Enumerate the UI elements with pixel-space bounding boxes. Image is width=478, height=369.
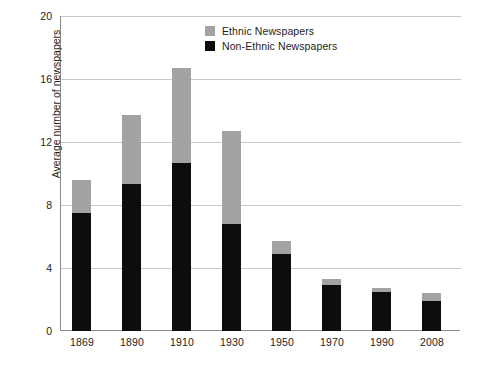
bar-segment-ethnic bbox=[272, 241, 291, 254]
bar-1990 bbox=[372, 288, 391, 331]
bar-segment-ethnic bbox=[122, 115, 141, 184]
y-tick-0: 0 bbox=[26, 326, 52, 337]
bar-1869 bbox=[72, 180, 91, 331]
legend-label-non-ethnic: Non-Ethnic Newspapers bbox=[222, 39, 337, 53]
chart-legend: Ethnic Newspapers Non-Ethnic Newspapers bbox=[205, 24, 337, 54]
x-axis-ticks: 1869 1890 1910 1930 1950 1970 1990 2008 bbox=[60, 336, 460, 352]
x-tick-1970: 1970 bbox=[307, 336, 357, 349]
x-tick-1890: 1890 bbox=[107, 336, 157, 349]
bar-segment-non-ethnic bbox=[322, 285, 341, 331]
y-tick-12: 12 bbox=[26, 137, 52, 148]
legend-item-ethnic: Ethnic Newspapers bbox=[205, 24, 337, 38]
bar-1910 bbox=[172, 68, 191, 331]
bar-segment-ethnic bbox=[72, 180, 91, 213]
bar-segment-ethnic bbox=[422, 293, 441, 301]
bar-1970 bbox=[322, 279, 341, 331]
bar-segment-ethnic bbox=[172, 68, 191, 163]
x-tick-1930: 1930 bbox=[207, 336, 257, 349]
bar-segment-non-ethnic bbox=[72, 213, 91, 331]
y-axis-ticks: 20 16 12 8 4 0 bbox=[0, 0, 56, 369]
legend-label-ethnic: Ethnic Newspapers bbox=[222, 24, 314, 38]
x-tick-1990: 1990 bbox=[357, 336, 407, 349]
bar-segment-non-ethnic bbox=[222, 224, 241, 331]
bar-1890 bbox=[122, 115, 141, 331]
y-tick-4: 4 bbox=[26, 263, 52, 274]
bar-segment-non-ethnic bbox=[122, 184, 141, 331]
x-tick-1869: 1869 bbox=[57, 336, 107, 349]
bar-segment-non-ethnic bbox=[372, 292, 391, 331]
bar-segment-non-ethnic bbox=[422, 301, 441, 331]
legend-swatch-ethnic-icon bbox=[205, 26, 215, 36]
bar-segment-ethnic bbox=[222, 131, 241, 224]
x-tick-1950: 1950 bbox=[257, 336, 307, 349]
legend-item-non-ethnic: Non-Ethnic Newspapers bbox=[205, 39, 337, 53]
bar-2008 bbox=[422, 293, 441, 331]
bar-segment-non-ethnic bbox=[272, 254, 291, 331]
y-tick-16: 16 bbox=[26, 74, 52, 85]
bar-segment-non-ethnic bbox=[172, 163, 191, 331]
x-tick-1910: 1910 bbox=[157, 336, 207, 349]
bar-1950 bbox=[272, 241, 291, 331]
bar-group bbox=[60, 16, 460, 331]
y-tick-8: 8 bbox=[26, 200, 52, 211]
x-tick-2008: 2008 bbox=[407, 336, 457, 349]
legend-swatch-non-ethnic-icon bbox=[205, 41, 215, 51]
bar-1930 bbox=[222, 131, 241, 331]
y-tick-20: 20 bbox=[26, 11, 52, 22]
stacked-bar-chart: 20 16 12 8 4 0 Average number of newspap… bbox=[0, 0, 478, 369]
